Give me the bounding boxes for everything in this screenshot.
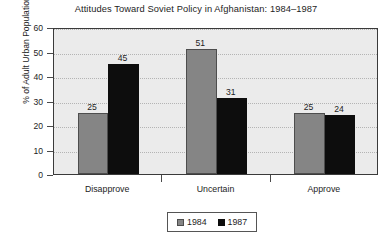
x-axis-label-disapprove: Disapprove (85, 184, 130, 194)
y-axis-label: 0 (0, 170, 43, 180)
bar-value-label: 25 (87, 102, 97, 112)
legend-label-1984: 1984 (187, 217, 207, 227)
bar-disapprove-1987[interactable] (108, 64, 139, 174)
x-axis-label-uncertain: Uncertain (197, 184, 235, 194)
plot-area (53, 28, 378, 175)
bar-disapprove-1984[interactable] (78, 113, 109, 174)
bar-approve-1984[interactable] (294, 113, 325, 174)
bar-uncertain-1984[interactable] (186, 49, 217, 174)
bar-value-label: 31 (226, 87, 236, 97)
y-axis-tick (47, 53, 53, 54)
y-axis-tick (47, 151, 53, 152)
y-axis-label: 40 (0, 72, 43, 82)
x-axis-label-approve: Approve (307, 184, 340, 194)
y-axis-label: 60 (0, 23, 43, 33)
bar-approve-1987[interactable] (325, 115, 356, 174)
legend-label-1987: 1987 (228, 217, 248, 227)
x-axis-tick (161, 175, 162, 182)
y-axis-label: 20 (0, 121, 43, 131)
legend-swatch-icon-1984 (177, 219, 184, 226)
bars-layer (54, 29, 377, 174)
y-axis-title: % of Adult Urban Population (21, 0, 31, 130)
y-axis-label: 30 (0, 97, 43, 107)
y-axis-tick (47, 102, 53, 103)
y-axis-tick (47, 28, 53, 29)
bar-value-label: 24 (334, 104, 344, 114)
bar-value-label: 51 (195, 38, 205, 48)
bar-value-label: 45 (118, 53, 128, 63)
y-axis-tick (47, 175, 53, 176)
bar-uncertain-1987[interactable] (217, 98, 248, 174)
y-axis-tick (47, 77, 53, 78)
chart-title: Attitudes Toward Soviet Policy in Afghan… (0, 4, 392, 14)
legend-item-1987[interactable]: 1987 (218, 217, 248, 227)
y-axis-tick (47, 126, 53, 127)
legend-swatch-icon-1987 (218, 219, 225, 226)
legend-item-1984[interactable]: 1984 (177, 217, 207, 227)
chart-legend: 1984 1987 (167, 212, 257, 232)
chart-container: Attitudes Toward Soviet Policy in Afghan… (0, 0, 392, 244)
bar-value-label: 25 (304, 102, 314, 112)
y-axis-label: 50 (0, 48, 43, 58)
x-axis-tick (270, 175, 271, 182)
y-axis-label: 10 (0, 146, 43, 156)
